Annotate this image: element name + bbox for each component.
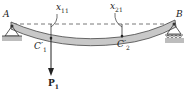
label-p1: P1 (48, 79, 59, 90)
label-x11: x11 (56, 3, 69, 14)
arrowhead-icon (48, 68, 54, 76)
label-a: A (3, 10, 10, 19)
label-x21: x21 (110, 2, 123, 13)
leader-x21 (115, 13, 122, 27)
beam-diagram: A B x11 x21 C′1 C′2 P1 (0, 0, 186, 91)
leader-x11 (51, 14, 57, 27)
point-c2 (121, 35, 124, 38)
label-b: B (176, 10, 183, 19)
label-c2-prime: C′2 (117, 40, 130, 51)
beam-drawing (0, 0, 186, 91)
label-c1-prime: C′1 (34, 42, 47, 53)
